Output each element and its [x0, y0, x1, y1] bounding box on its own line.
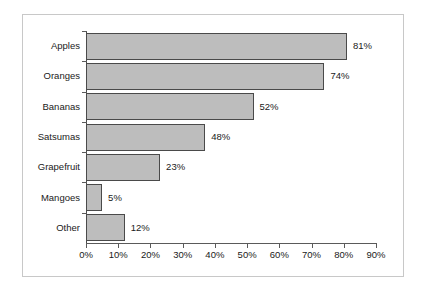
x-axis-tick [215, 244, 216, 248]
x-axis-tick-label: 10% [109, 250, 128, 260]
x-axis-tick [376, 244, 377, 248]
category-label: Grapefruit [38, 163, 80, 173]
x-axis-tick-label: 30% [173, 250, 192, 260]
x-axis-tick-label: 80% [334, 250, 353, 260]
category-label-row: Grapefruit [0, 152, 80, 182]
category-label-row: Apples [0, 31, 80, 61]
category-label-row: Mangoes [0, 182, 80, 212]
x-axis-line [86, 243, 377, 244]
bar-value-label: 23% [166, 163, 185, 173]
bar-band: 5% [86, 184, 376, 211]
bar [86, 63, 324, 90]
bar [86, 93, 254, 120]
x-axis-tick [344, 244, 345, 248]
category-label: Satsumas [38, 132, 80, 142]
x-axis-tick [247, 244, 248, 248]
x-axis-tick-label: 0% [79, 250, 93, 260]
bar-chart: ApplesOrangesBananasSatsumasGrapefruitMa… [0, 0, 427, 296]
category-label: Oranges [44, 72, 80, 82]
bar-value-label: 5% [108, 193, 122, 203]
bar-band: 81% [86, 33, 376, 60]
x-axis-tick-label: 60% [270, 250, 289, 260]
category-label-row: Other [0, 213, 80, 243]
bar-band: 12% [86, 214, 376, 241]
category-label-row: Oranges [0, 61, 80, 91]
bar [86, 154, 160, 181]
category-label-row: Bananas [0, 92, 80, 122]
x-axis-tick [118, 244, 119, 248]
bar-value-label: 74% [330, 72, 349, 82]
x-axis-tick-label: 20% [141, 250, 160, 260]
category-label: Bananas [42, 102, 80, 112]
category-label: Mangoes [41, 193, 80, 203]
bar-band: 48% [86, 124, 376, 151]
bar-band: 52% [86, 93, 376, 120]
bar [86, 124, 205, 151]
x-axis-tick-label: 50% [238, 250, 257, 260]
bar-value-label: 12% [131, 223, 150, 233]
x-axis-tick [312, 244, 313, 248]
x-axis-tick-label: 90% [366, 250, 385, 260]
x-axis-tick [86, 244, 87, 248]
category-label: Other [56, 223, 80, 233]
bar-value-label: 52% [260, 102, 279, 112]
x-axis-tick-label: 40% [205, 250, 224, 260]
bar-value-label: 48% [211, 132, 230, 142]
category-label-row: Satsumas [0, 122, 80, 152]
plot-area: 81%74%52%48%23%5%12% [86, 31, 376, 243]
bar-band: 23% [86, 154, 376, 181]
bar [86, 33, 347, 60]
x-axis-tick-label: 70% [302, 250, 321, 260]
x-axis-tick [279, 244, 280, 248]
x-axis-tick [150, 244, 151, 248]
bar [86, 214, 125, 241]
bar-value-label: 81% [353, 41, 372, 51]
category-axis-labels: ApplesOrangesBananasSatsumasGrapefruitMa… [0, 31, 80, 243]
bar [86, 184, 102, 211]
category-label: Apples [51, 41, 80, 51]
x-axis-tick [183, 244, 184, 248]
bar-band: 74% [86, 63, 376, 90]
